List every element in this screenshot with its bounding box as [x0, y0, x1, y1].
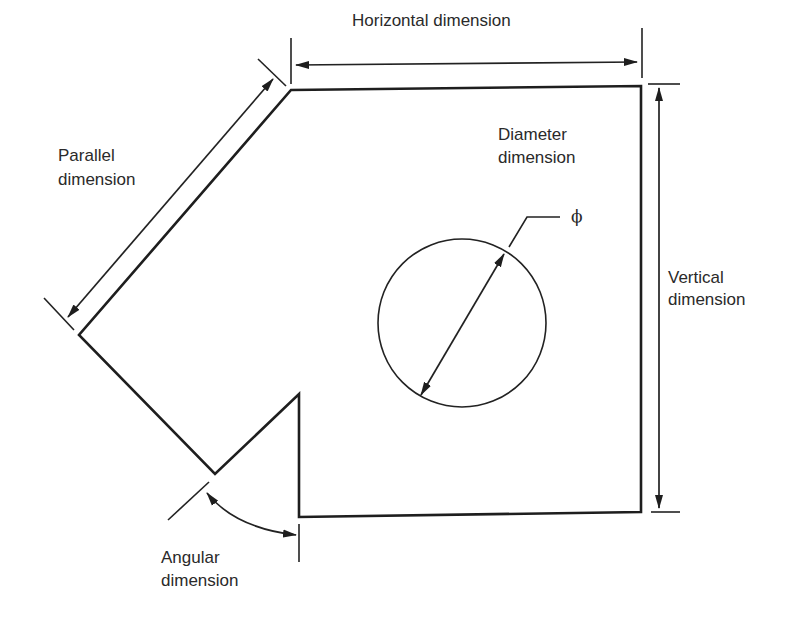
horizontal-dimension-arrow	[296, 62, 637, 65]
extension-line-angled	[168, 482, 209, 520]
extension-line-top	[258, 59, 286, 86]
horizontal-dimension-label: Horizontal dimension	[352, 11, 511, 30]
horizontal-dimension: Horizontal dimension	[291, 11, 642, 84]
parallel-dimension-label-1: Parallel	[58, 146, 115, 165]
angular-dimension-label-1: Angular	[161, 548, 220, 567]
diameter-dimension-arrow	[421, 254, 504, 395]
parallel-dimension-label-2: dimension	[58, 170, 136, 189]
angular-dimension: Angular dimension	[161, 482, 299, 590]
diameter-dimension-label-2: dimension	[498, 148, 576, 167]
parallel-dimension: Parallel dimension	[44, 59, 286, 330]
hole-circle	[378, 239, 546, 407]
angular-dimension-label-2: dimension	[161, 571, 239, 590]
vertical-dimension-label-1: Vertical	[668, 268, 724, 287]
vertical-dimension: Vertical dimension	[648, 84, 746, 512]
diameter-leader-line	[509, 217, 560, 247]
vertical-dimension-label-2: dimension	[668, 290, 746, 309]
dimensioning-diagram: Horizontal dimension Parallel dimension …	[0, 0, 807, 618]
diameter-symbol: ϕ	[571, 206, 583, 226]
diameter-dimension-label-1: Diameter	[498, 125, 567, 144]
diameter-dimension: ϕ Diameter dimension	[421, 125, 583, 395]
parallel-dimension-arrow	[68, 79, 273, 317]
angular-dimension-arc	[207, 493, 296, 535]
